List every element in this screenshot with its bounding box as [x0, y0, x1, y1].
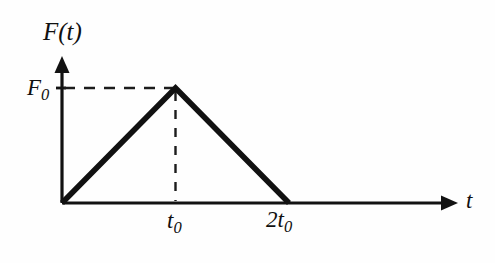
x-axis-title: t	[466, 189, 472, 212]
t0-subscript: 0	[173, 218, 181, 237]
f0-subscript: 0	[41, 85, 49, 104]
y-axis-title: F(t)	[43, 19, 82, 44]
x-axis-tick-label-t0: t0	[167, 209, 182, 237]
y-axis-group	[55, 56, 70, 203]
f0-symbol: F	[27, 75, 41, 100]
y-axis-tick-label-f0: F0	[27, 76, 49, 104]
figure-canvas: F(t) F0 t0 2t0 t	[0, 0, 495, 263]
two-t0-subscript: 0	[284, 217, 292, 236]
y-axis-title-argument: (t)	[58, 18, 82, 45]
x-axis-group	[62, 196, 458, 211]
x-axis-arrowhead-icon	[441, 196, 458, 211]
x-axis-tick-label-2t0: 2t0	[266, 208, 292, 236]
y-axis-arrowhead-icon	[55, 56, 70, 73]
x-axis-title-symbol: t	[466, 188, 472, 213]
two-t0-symbol: 2t	[266, 207, 284, 232]
y-axis-title-symbol: F	[43, 18, 58, 45]
